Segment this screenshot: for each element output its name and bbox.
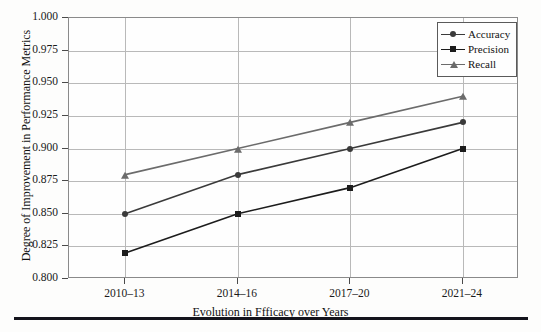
data-point-recall	[346, 119, 354, 126]
data-point-accuracy	[122, 211, 128, 217]
y-tick-label: 0.875	[32, 174, 58, 186]
data-point-accuracy	[460, 119, 466, 125]
x-tick-mark	[124, 278, 125, 284]
legend-swatch-recall	[441, 59, 465, 71]
data-point-precision	[347, 185, 353, 191]
legend-label-precision: Precision	[468, 44, 509, 55]
y-tick-label: 1.000	[32, 11, 58, 23]
legend-item-accuracy[interactable]: Accuracy	[441, 27, 512, 42]
x-tick-label: 2014–16	[217, 288, 257, 300]
data-point-recall	[234, 145, 242, 152]
data-point-precision	[122, 250, 128, 256]
y-tick-label: 0.800	[32, 272, 58, 284]
x-tick-mark	[349, 278, 350, 284]
legend-label-recall: Recall	[468, 59, 496, 70]
x-tick-label: 2010–13	[104, 288, 144, 300]
x-tick-mark	[237, 278, 238, 284]
x-tick-label: 2017–20	[329, 288, 369, 300]
triangle-marker-icon	[450, 61, 458, 68]
data-point-precision	[235, 211, 241, 217]
legend-swatch-accuracy	[441, 29, 465, 41]
legend-label-accuracy: Accuracy	[468, 29, 510, 40]
legend-item-recall[interactable]: Recall	[441, 57, 512, 72]
circle-marker-icon	[450, 31, 456, 37]
y-axis-title: Degree of Improvement in Performance Met…	[19, 13, 34, 278]
square-marker-icon	[450, 46, 456, 52]
y-tick-label: 0.825	[32, 239, 58, 251]
y-tick-label: 0.950	[32, 76, 58, 88]
series-line-recall	[125, 96, 463, 174]
y-tick-mark	[62, 278, 68, 279]
legend-item-precision[interactable]: Precision	[441, 42, 512, 57]
chart-legend: Accuracy Precision Recall	[437, 22, 517, 77]
data-point-recall	[121, 171, 129, 178]
y-tick-label: 0.900	[32, 142, 58, 154]
y-tick-label: 0.925	[32, 109, 58, 121]
series-line-precision	[125, 149, 463, 253]
y-tick-label: 0.850	[32, 207, 58, 219]
data-point-precision	[460, 146, 466, 152]
data-point-recall	[459, 93, 467, 100]
data-point-accuracy	[235, 172, 241, 178]
x-tick-mark	[462, 278, 463, 284]
legend-swatch-precision	[441, 44, 465, 56]
data-point-accuracy	[347, 146, 353, 152]
bottom-divider	[14, 317, 528, 320]
chart-page: 0.8000.8250.8500.8750.9000.9250.9500.975…	[0, 0, 541, 332]
x-tick-label: 2021–24	[442, 288, 482, 300]
y-tick-label: 0.975	[32, 44, 58, 56]
